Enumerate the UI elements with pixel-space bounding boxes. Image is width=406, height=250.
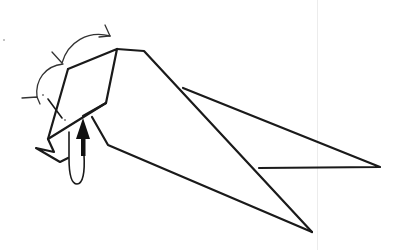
fold-dot bbox=[42, 94, 44, 96]
origami-diagram bbox=[0, 0, 406, 250]
beak bbox=[36, 139, 68, 162]
fold-arrow-small-icon bbox=[37, 64, 63, 97]
fold-arrow-small-head-icon bbox=[22, 97, 40, 104]
fold-dot bbox=[64, 119, 66, 121]
head-flap bbox=[68, 49, 117, 116]
body-lower-edge bbox=[92, 117, 312, 232]
fold-dot bbox=[3, 39, 5, 41]
back-ridge bbox=[117, 49, 312, 232]
push-arrow-icon bbox=[76, 118, 90, 156]
fold-arrow-large-icon bbox=[62, 34, 110, 63]
fold-arrow-large-tail-icon bbox=[52, 52, 62, 63]
wing bbox=[183, 88, 380, 168]
